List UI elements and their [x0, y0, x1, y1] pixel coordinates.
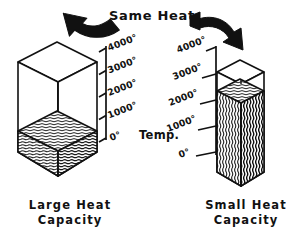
small-scale-tick-0 — [196, 152, 216, 156]
large-scale-tick-1000 — [99, 116, 106, 120]
small-caption-line-1: Small Heat — [205, 198, 287, 212]
small-scale-label-4000: 4000° — [175, 33, 208, 54]
small-box-liquid-right-face — [241, 91, 264, 186]
large-heat-capacity-caption: Large Heat Capacity — [6, 198, 134, 228]
small-scale-label-3000: 3000° — [171, 60, 204, 81]
temperature-axis-label: Temp. — [139, 128, 179, 142]
small-scale-tick-1000 — [198, 126, 216, 130]
large-scale-tick-2000 — [99, 93, 106, 97]
small-container — [217, 60, 264, 186]
small-heat-capacity-caption: Small Heat Capacity — [190, 198, 300, 228]
large-scale-tick-3000 — [99, 71, 106, 75]
large-scale-tick-0 — [99, 138, 106, 142]
small-scale-tick-3000 — [202, 74, 216, 78]
same-heat-annotation: Same Heat — [109, 8, 195, 23]
small-scale-tick-4000 — [206, 47, 216, 51]
large-container — [18, 42, 97, 176]
large-caption-line-2: Capacity — [6, 213, 134, 228]
figure-canvas: 4000° 3000° 2000° 1000° 0° 4000° 3000° 2… — [0, 0, 300, 245]
large-scale-label-3000: 3000° — [106, 54, 139, 75]
large-scale-label-0: 0° — [108, 129, 123, 143]
large-scale-tick-4000 — [99, 48, 106, 52]
small-box-liquid-left-face — [217, 91, 241, 186]
small-scale-tick-2000 — [200, 100, 216, 104]
large-scale-label-2000: 2000° — [106, 76, 139, 97]
small-scale-label-0: 0° — [177, 146, 192, 160]
small-caption-line-2: Capacity — [190, 213, 300, 228]
large-scale-label-1000: 1000° — [106, 99, 139, 120]
small-scale-label-2000: 2000° — [167, 86, 200, 107]
large-caption-line-1: Large Heat — [29, 198, 111, 212]
large-box-temperature-scale: 4000° 3000° 2000° 1000° 0° — [99, 31, 139, 142]
